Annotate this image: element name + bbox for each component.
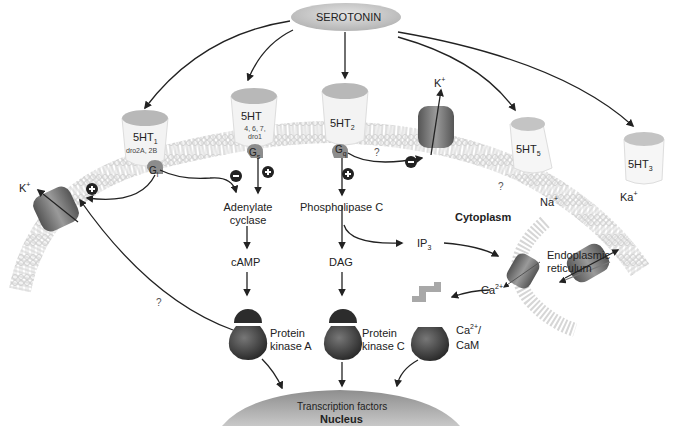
gi-protein-label: Gi bbox=[149, 164, 158, 177]
pka-label-2: kinase A bbox=[270, 340, 312, 353]
pkc-label-1: Protein bbox=[362, 327, 397, 340]
k-channel-mid bbox=[418, 90, 454, 155]
ca-cam-kinase bbox=[411, 282, 449, 361]
receptor-5ht1-label: 5HT1 bbox=[133, 131, 158, 144]
diagram-graphics bbox=[0, 0, 678, 443]
receptor-5ht2-label: 5HT2 bbox=[330, 117, 355, 130]
pkc-label-2: kinase C bbox=[362, 340, 405, 353]
phospholipase-c-label: Phospholipase C bbox=[300, 201, 383, 214]
pka-label-1: Protein bbox=[270, 327, 305, 340]
k-ion-mid-label: K+ bbox=[434, 77, 445, 90]
k-ion-left-label: K+ bbox=[19, 182, 30, 195]
camp-label: cAMP bbox=[231, 256, 260, 269]
ca-cam-label-2: CaM bbox=[456, 339, 479, 352]
receptor-5ht1-subtypes: dro2A, 2B bbox=[126, 146, 157, 155]
receptor-5ht4-subtypes-2: dro1 bbox=[240, 132, 270, 141]
adenylate-cyclase-label-1: Adenylate bbox=[218, 201, 278, 214]
er-label-2: reticulum bbox=[547, 262, 592, 275]
protein-kinase-c bbox=[324, 309, 362, 360]
dag-label: DAG bbox=[329, 256, 353, 269]
ka-ion-label: Ka+ bbox=[620, 191, 638, 204]
gq-protein-label: Gq bbox=[335, 143, 347, 156]
er-channel bbox=[504, 251, 543, 292]
na-ion-label: Na+ bbox=[540, 196, 558, 209]
cytoplasm-label: Cytoplasm bbox=[455, 211, 511, 224]
er-label-1: Endoplasmic bbox=[547, 249, 610, 262]
receptor-5ht4-label: 5HT bbox=[241, 110, 262, 123]
serotonin-label: SEROTONIN bbox=[316, 11, 381, 24]
ca-ion-label: Ca2+ bbox=[481, 284, 503, 297]
receptor-5ht3-label: 5HT3 bbox=[628, 158, 653, 171]
unknown-mark-5ht5: ? bbox=[498, 180, 504, 193]
transcription-factors-label: Transcription factors bbox=[297, 400, 387, 413]
serotonin-arrows bbox=[145, 21, 633, 126]
unknown-mark-5ht2: ? bbox=[374, 146, 380, 159]
unknown-mark-pka: ? bbox=[156, 296, 162, 309]
ip3-label: IP3 bbox=[417, 237, 431, 250]
nucleus-label: Nucleus bbox=[320, 413, 363, 426]
protein-kinase-a bbox=[229, 309, 267, 360]
receptor-5ht5-label: 5HT5 bbox=[516, 143, 541, 156]
serotonin-signaling-diagram: SEROTONIN 5HT1 dro2A, 2B Gi 5HT 4, 6, 7,… bbox=[0, 0, 678, 443]
adenylate-cyclase-label-2: cyclase bbox=[218, 214, 278, 227]
gs-protein-label: Gs bbox=[249, 146, 260, 159]
ca-cam-label-1: Ca2+/ bbox=[456, 324, 481, 337]
